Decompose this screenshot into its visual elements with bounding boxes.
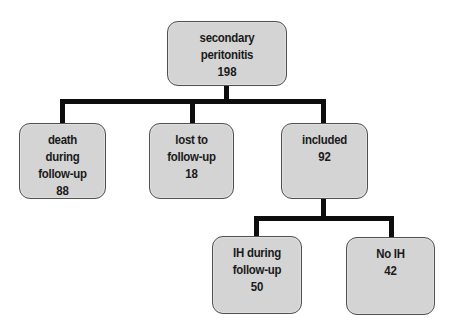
- node-included: included 92: [281, 123, 368, 199]
- node-ih-during-follow-up: IH during follow-up 50: [212, 236, 302, 314]
- connector-to-death: [60, 99, 65, 124]
- node-secondary-peritonitis: secondary peritonitis 198: [167, 21, 287, 86]
- node-label: IH during follow-up: [229, 244, 285, 278]
- node-count: 50: [229, 278, 285, 295]
- node-lost-to-follow-up: lost to follow-up 18: [149, 123, 234, 199]
- node-label: lost to follow-up: [157, 131, 227, 165]
- node-label: death during follow-up: [32, 131, 93, 182]
- connector-to-included: [321, 99, 326, 124]
- node-count: 92: [287, 148, 362, 165]
- node-label: No IH: [352, 245, 429, 262]
- connector-level2-bar: [254, 216, 394, 221]
- connector-to-lost: [190, 99, 195, 124]
- node-label: included: [287, 131, 362, 148]
- connector-to-no-ih: [389, 216, 394, 238]
- node-count: 198: [175, 63, 279, 80]
- node-count: 18: [157, 165, 227, 182]
- node-count: 88: [32, 182, 93, 199]
- node-no-ih: No IH 42: [346, 237, 435, 315]
- node-label: secondary peritonitis: [175, 29, 279, 63]
- node-death-during-follow-up: death during follow-up 88: [19, 123, 106, 199]
- node-count: 42: [352, 262, 429, 279]
- connector-to-ih: [254, 216, 259, 237]
- flowchart-diagram: secondary peritonitis 198 death during f…: [0, 0, 451, 332]
